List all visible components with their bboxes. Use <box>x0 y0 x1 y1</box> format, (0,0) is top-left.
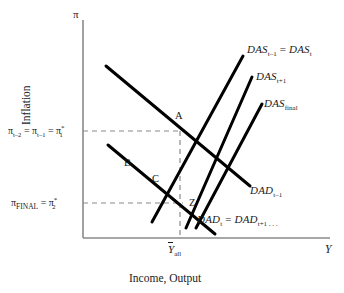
y-tick-inflation-1: πt–2 = πt–1 = π*1 <box>8 124 63 138</box>
y-bar-subscript: all <box>174 250 181 258</box>
curve-label-das-final: DASfinal <box>264 97 298 112</box>
dad-eq-1: = <box>225 213 231 225</box>
das-sub-4: final <box>285 104 298 112</box>
y-tick-inflation-2: πFINAL = π*2 <box>11 196 56 211</box>
pi-sub-2: t–1 <box>37 131 45 138</box>
das-name-1: DAS <box>247 43 268 55</box>
point-label-z: Z <box>189 197 195 208</box>
dad-name-1: DAD <box>250 184 273 196</box>
pi-sub-3: 1 <box>60 131 63 138</box>
curve-label-das-t-plus-1: DASt+1 <box>256 70 286 85</box>
dad-name-2: DAD <box>197 213 220 225</box>
point-label-c: C <box>152 173 159 184</box>
x-axis-title: Income, Output <box>129 272 201 284</box>
curve-label-dad-t-minus-1: DADt–1 <box>250 184 282 199</box>
y-bar-symbol: Y <box>168 243 174 255</box>
point-label-b: B <box>124 157 131 168</box>
das-sub-3: t+1 <box>277 77 286 85</box>
dad-sub-2: t <box>220 220 222 228</box>
das-name-3: DAS <box>256 70 277 82</box>
dad-sub-3: t+1 . . . <box>258 220 278 228</box>
das-eq-1: = <box>280 43 286 55</box>
das-name-2: DAS <box>289 43 310 55</box>
pi-sub-final: FINAL <box>16 202 38 211</box>
x-axis-symbol: Y <box>325 243 331 255</box>
y-axis-title: Inflation <box>20 85 32 125</box>
dad-name-3: DAD <box>234 213 257 225</box>
curve-das-t-minus-1-equals-das-t <box>152 56 243 222</box>
das-name-4: DAS <box>264 97 285 109</box>
curve-label-dad-t: DADt = DADt+1 . . . <box>197 213 278 228</box>
pi-eq-1: = π <box>24 125 37 136</box>
point-label-a: A <box>175 110 183 121</box>
dad-sub-1: t–1 <box>273 191 282 199</box>
pi-sub-4: 2 <box>52 203 55 210</box>
x-tick-potential-output: Yall <box>168 243 181 258</box>
das-dad-diagram: π Inflation Y Income, Output Yall πt–2 =… <box>0 0 344 293</box>
curve-label-das-t-minus-1: DASt–1 = DASt <box>247 43 312 58</box>
pi-sub-1: t–2 <box>13 131 21 138</box>
y-axis-symbol: π <box>73 8 79 20</box>
das-sub-2: t <box>310 50 312 58</box>
das-sub-1: t–1 <box>268 50 277 58</box>
